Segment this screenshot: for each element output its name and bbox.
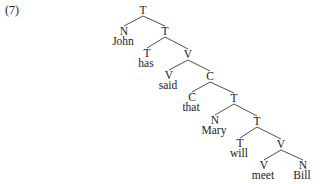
node-category-label: T bbox=[161, 25, 168, 37]
node-word-label: Bill bbox=[293, 169, 310, 181]
node-word-label: John bbox=[112, 35, 134, 47]
node-word-label: meet bbox=[252, 169, 275, 181]
syntax-tree: TNJohnTThasVVsaidCCthatTNMaryTTwillVVmee… bbox=[0, 0, 320, 184]
node-category-label: V bbox=[184, 48, 193, 60]
node-word-label: said bbox=[159, 79, 178, 91]
node-category-label: T bbox=[253, 115, 260, 127]
node-word-label: that bbox=[182, 101, 200, 113]
tree-node-labels: TNJohnTThasVVsaidCCthatTNMaryTTwillVVmee… bbox=[112, 4, 311, 181]
node-word-label: has bbox=[138, 57, 154, 69]
node-category-label: T bbox=[230, 92, 237, 104]
node-word-label: will bbox=[230, 147, 248, 159]
node-category-label: C bbox=[206, 70, 214, 82]
node-word-label: Mary bbox=[202, 124, 227, 137]
node-category-label: V bbox=[277, 138, 286, 150]
node-category-label: T bbox=[139, 4, 146, 16]
